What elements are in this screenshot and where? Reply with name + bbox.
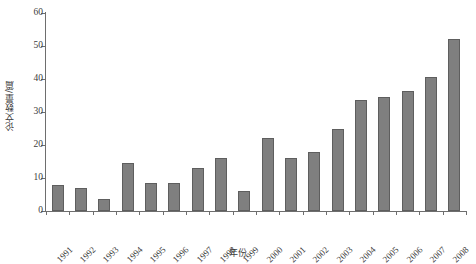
x-axis-tick-mark <box>419 211 420 215</box>
x-axis-tick-mark <box>93 211 94 215</box>
bar-2004 <box>355 100 367 211</box>
x-axis-tick-mark <box>396 211 397 215</box>
y-axis-tick-label: 50 <box>34 40 44 51</box>
x-axis-tick-mark <box>303 211 304 215</box>
bar-2000 <box>262 138 274 211</box>
y-axis-tick-label: 60 <box>34 7 44 18</box>
bar-1998 <box>215 158 227 211</box>
x-axis-tick-mark <box>209 211 210 215</box>
bar-1997 <box>192 168 204 211</box>
x-axis-title: 年份 <box>0 246 476 259</box>
y-axis-tick-label: 0 <box>38 205 43 216</box>
bar-2001 <box>285 158 297 211</box>
x-axis-tick-mark <box>373 211 374 215</box>
x-axis-tick-mark <box>163 211 164 215</box>
x-axis-tick-mark <box>139 211 140 215</box>
bar-1994 <box>122 163 134 211</box>
y-axis-tick-label: 10 <box>34 172 44 183</box>
bar-1992 <box>75 188 87 211</box>
bar-2006 <box>402 91 414 211</box>
bar-2005 <box>378 97 390 211</box>
y-axis-tick-label: 30 <box>34 106 44 117</box>
bar-1995 <box>145 183 157 211</box>
y-axis-title-label: 论文数量/篇 <box>5 80 14 131</box>
x-axis-tick-mark <box>326 211 327 215</box>
bar-2007 <box>425 77 437 211</box>
x-axis-tick-mark <box>349 211 350 215</box>
x-axis-tick-mark <box>443 211 444 215</box>
plot-area: 0102030405060 19911992199319941995199619… <box>46 13 466 211</box>
x-axis-tick-mark <box>186 211 187 215</box>
bar-1999 <box>238 191 250 211</box>
bar-2008 <box>448 39 460 211</box>
x-axis-tick-mark <box>233 211 234 215</box>
bar-2002 <box>308 152 320 211</box>
y-axis-tick-label: 20 <box>34 139 44 150</box>
x-axis-tick-mark <box>69 211 70 215</box>
y-axis-tick-label: 40 <box>34 73 44 84</box>
x-axis-tick-mark <box>116 211 117 215</box>
bar-1993 <box>98 199 110 211</box>
x-axis-tick-mark <box>46 211 47 215</box>
x-axis-tick-mark <box>256 211 257 215</box>
bar-2003 <box>332 129 344 212</box>
x-axis-tick-mark <box>279 211 280 215</box>
bar-1996 <box>168 183 180 211</box>
bar-1991 <box>52 185 64 211</box>
x-axis-tick-mark <box>466 211 467 215</box>
y-axis-title: 论文数量/篇 <box>0 0 18 212</box>
